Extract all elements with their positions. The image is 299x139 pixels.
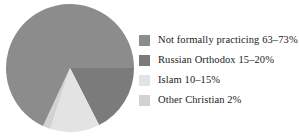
legend-item-other-christian[interactable]: Other Christian 2% [139, 90, 297, 110]
pie-chart-graphic [5, 3, 136, 134]
swatch-islam [139, 75, 150, 86]
legend-item-not-formally-practicing[interactable]: Not formally practicing 63–73% [139, 30, 297, 50]
pie-chart-figure: Not formally practicing 63–73% Russian O… [0, 0, 299, 139]
legend-item-russian-orthodox[interactable]: Russian Orthodox 15–20% [139, 50, 297, 70]
swatch-russian-orthodox [139, 55, 150, 66]
legend-item-islam[interactable]: Islam 10–15% [139, 70, 297, 90]
legend-label-russian-orthodox: Russian Orthodox 15–20% [158, 54, 274, 66]
swatch-other-christian [139, 95, 150, 106]
legend-label-not-formally-practicing: Not formally practicing 63–73% [158, 34, 298, 46]
legend-label-other-christian: Other Christian 2% [158, 94, 241, 106]
swatch-not-formally-practicing [139, 35, 150, 46]
pie-svg [5, 3, 136, 134]
chart-legend: Not formally practicing 63–73% Russian O… [139, 30, 297, 116]
legend-label-islam: Islam 10–15% [158, 74, 220, 86]
